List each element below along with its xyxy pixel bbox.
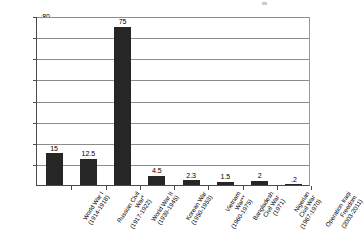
x-axis-label: Russian CivilWar*(1917-1922) [116,190,154,232]
gridline-60 [37,59,309,60]
x-axis-label: Operation IraqiFreedom(2003-2011) [324,190,364,236]
gridline-30 [37,123,309,124]
bar [114,27,131,185]
x-axis-label: Korean War(1950-1953) [183,190,213,226]
gridline-10 [37,165,309,166]
bar [183,180,200,185]
x-axis-label: NigerianCivil War(1967-1970) [286,190,322,230]
gridline-80 [37,17,309,18]
x-tick [243,186,244,190]
x-tick [71,186,72,190]
bar-value-label: .2 [274,176,314,184]
x-tick [140,186,141,190]
x-tick [106,186,107,190]
x-axis-label: VietnamWar**(1960-1975) [217,190,253,230]
x-axis-label: World War II(1939-1945) [149,190,180,226]
bar-value-label: 12.5 [68,150,108,158]
bar [46,153,63,185]
x-axis-label: BangladeshCivil War(1971) [251,190,287,229]
gridline-40 [37,102,309,103]
x-tick [311,186,312,190]
bar [285,184,302,185]
bar [148,176,165,186]
bar [251,181,268,185]
x-tick [174,186,175,190]
scan-artifact [262,2,267,5]
bar [217,182,234,185]
gridline-50 [37,80,309,81]
x-tick [277,186,278,190]
x-axis-label: World War I(1914-1918) [80,190,110,226]
bar-value-label: 75 [103,18,143,26]
gridline-20 [37,144,309,145]
x-tick [208,186,209,190]
gridline-70 [37,38,309,39]
bar [80,159,97,185]
plot-area: 1512.5754.52.31.52.2 [36,17,310,186]
